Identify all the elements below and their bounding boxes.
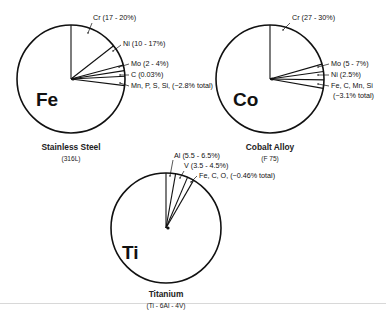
pie-subtitle: (Ti - 6Al - 4V) xyxy=(147,302,186,310)
slice-label: Mo (5 - 7%) xyxy=(331,59,369,68)
slice-label: V (3.5 - 4.5%) xyxy=(184,161,228,170)
leader-dot xyxy=(87,32,89,34)
slice-boundaries xyxy=(270,25,324,88)
leader-dot xyxy=(112,50,114,52)
pie-titanium: Al (5.5 - 6.5%)V (3.5 - 4.5%)Fe, C, O, (… xyxy=(111,151,275,310)
slice-boundary-line xyxy=(270,79,323,88)
slice-boundary-line xyxy=(270,79,324,80)
slice-label: Cr (17 - 20%) xyxy=(93,13,136,22)
leader-dot xyxy=(317,66,319,68)
slice-label: Ni (10 - 17%) xyxy=(123,39,165,48)
slice-boundary-line xyxy=(71,46,114,79)
slice-label: Mo (2 - 4%) xyxy=(131,59,169,68)
pie-title: Cobalt Alloy xyxy=(246,142,295,152)
pie-title: Stainless Steel xyxy=(41,142,100,152)
leader-dot xyxy=(190,181,192,183)
slice-boundaries xyxy=(166,173,194,230)
leader-dot xyxy=(317,83,319,85)
pie-center-dot xyxy=(71,77,74,80)
leader-dot xyxy=(179,177,181,179)
slice-label: C (0.03%) xyxy=(131,70,163,79)
leader-dot xyxy=(317,74,319,76)
slice-label: Mn, P, S, Si, (~2.8% total) xyxy=(131,81,213,90)
slice-boundary-line xyxy=(270,64,322,79)
slice-label: Ni (2.5%) xyxy=(331,70,361,79)
slice-label: Cr (27 - 30%) xyxy=(292,13,335,22)
leader-dot xyxy=(119,74,121,76)
pie-cobalt-alloy: Cr (27 - 30%)Mo (5 - 7%)Ni (2.5%)Fe, C, … xyxy=(216,13,374,163)
slice-labels: Cr (27 - 30%)Mo (5 - 7%)Ni (2.5%)Fe, C, … xyxy=(282,13,374,100)
slice-boundary-line xyxy=(270,72,324,80)
slice-label: Fe, C, Mn, Si xyxy=(331,81,373,90)
base-element-label: Co xyxy=(233,89,258,110)
slice-label: Al (5.5 - 6.5%) xyxy=(174,151,220,160)
leader-dot xyxy=(118,66,120,68)
pie-subtitle: (316L) xyxy=(61,155,80,163)
pie-stainless-steel: Cr (17 - 20%)Ni (10 - 17%)Mo (2 - 4%)C (… xyxy=(17,13,213,163)
pie-title: Titanium xyxy=(149,289,184,299)
alloy-composition-diagram: Cr (17 - 20%)Ni (10 - 17%)Mo (2 - 4%)C (… xyxy=(0,0,386,322)
base-element-label: Fe xyxy=(36,89,58,110)
pie-center-dot xyxy=(270,77,273,80)
slice-boundary-line xyxy=(166,177,188,228)
slice-label: Fe, C, O, (~0.46% total) xyxy=(199,171,275,180)
leader-dot xyxy=(169,175,171,177)
slice-boundary-line xyxy=(71,79,125,86)
leader-dot xyxy=(282,29,284,31)
pie-subtitle: (F 75) xyxy=(261,155,279,163)
leader-dot xyxy=(119,82,121,84)
pie-center-dot xyxy=(166,226,169,229)
slice-labels: Al (5.5 - 6.5%)V (3.5 - 4.5%)Fe, C, O, (… xyxy=(169,151,275,183)
slice-label: (~3.1% total) xyxy=(333,91,374,100)
slice-boundaries xyxy=(71,25,125,86)
base-element-label: Ti xyxy=(122,242,139,263)
